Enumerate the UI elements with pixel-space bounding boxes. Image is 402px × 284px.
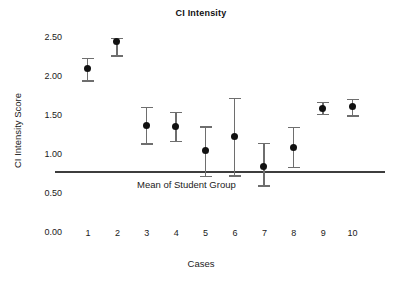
- data-point-case-10: [346, 0, 360, 284]
- data-marker: [84, 65, 91, 72]
- data-marker: [260, 163, 267, 170]
- data-marker: [231, 133, 238, 140]
- data-point-case-4: [169, 0, 183, 284]
- data-point-case-8: [287, 0, 301, 284]
- error-bar-cap-lower: [200, 176, 212, 177]
- plot-area: Mean of Student Group: [0, 0, 402, 284]
- data-point-case-5: [199, 0, 213, 284]
- error-bar-cap-lower: [317, 114, 329, 115]
- error-bar-cap-lower: [347, 115, 359, 116]
- data-point-case-6: [228, 0, 242, 284]
- error-bar-cap-upper: [258, 143, 270, 144]
- data-point-case-2: [110, 0, 124, 284]
- data-point-case-7: [257, 0, 271, 284]
- error-bar-cap-upper: [170, 112, 182, 113]
- data-marker: [113, 38, 120, 45]
- error-bar-cap-upper: [200, 126, 212, 127]
- error-bar-cap-lower: [141, 143, 153, 144]
- error-bar-cap-lower: [258, 185, 270, 186]
- data-marker: [290, 144, 297, 151]
- error-bar-cap-upper: [288, 127, 300, 128]
- error-bar-cap-lower: [82, 80, 94, 81]
- error-bar-cap-upper: [229, 98, 241, 99]
- data-marker: [143, 122, 150, 129]
- data-marker: [172, 123, 179, 130]
- data-point-case-3: [140, 0, 154, 284]
- error-bar-cap-lower: [170, 141, 182, 142]
- data-marker: [349, 103, 356, 110]
- error-bar-cap-upper: [317, 102, 329, 103]
- error-bar-cap-lower: [229, 175, 241, 176]
- data-marker: [202, 147, 209, 154]
- data-point-case-9: [316, 0, 330, 284]
- error-bar-cap-upper: [347, 99, 359, 100]
- error-bar-cap-lower: [288, 167, 300, 168]
- error-bar-cap-upper: [141, 107, 153, 108]
- ci-intensity-chart: CI Intensity CI Intensity Score Cases 2.…: [0, 0, 402, 284]
- data-point-case-1: [81, 0, 95, 284]
- error-bar-cap-upper: [82, 58, 94, 59]
- mean-of-student-group-line: [55, 171, 385, 173]
- data-marker: [319, 105, 326, 112]
- error-bar-cap-lower: [111, 55, 123, 56]
